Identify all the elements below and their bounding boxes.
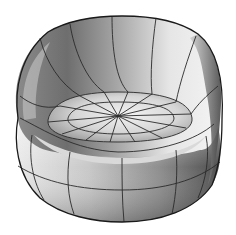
chair-render [0,0,236,235]
